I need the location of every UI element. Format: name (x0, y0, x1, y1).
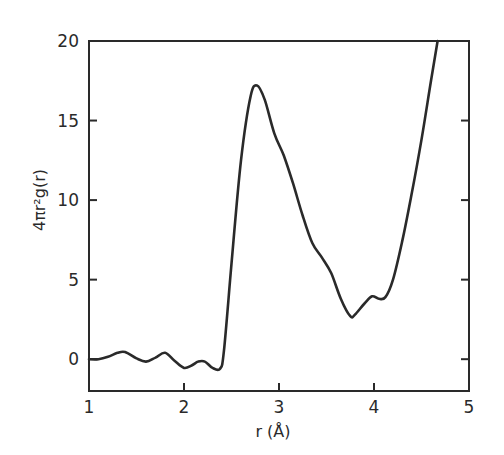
y-tick-label: 0 (68, 349, 79, 369)
x-axis-title: r (Å) (255, 422, 290, 441)
x-tick-label: 3 (274, 397, 285, 417)
x-axis-ticks: 12345 (84, 383, 475, 417)
x-tick-label: 4 (369, 397, 380, 417)
x-tick-label: 1 (84, 397, 95, 417)
rdf-curve (89, 41, 438, 370)
x-tick-label: 5 (464, 397, 475, 417)
rdf-chart: 12345 05101520 r (Å) 4πr²g(r) (0, 0, 504, 455)
y-tick-label: 5 (68, 270, 79, 290)
y-tick-label: 15 (57, 111, 79, 131)
plot-frame (89, 41, 469, 391)
y-axis-title: 4πr²g(r) (30, 169, 49, 231)
y-axis-ticks: 05101520 (57, 31, 469, 369)
y-tick-label: 20 (57, 31, 79, 51)
x-tick-label: 2 (179, 397, 190, 417)
y-tick-label: 10 (57, 190, 79, 210)
